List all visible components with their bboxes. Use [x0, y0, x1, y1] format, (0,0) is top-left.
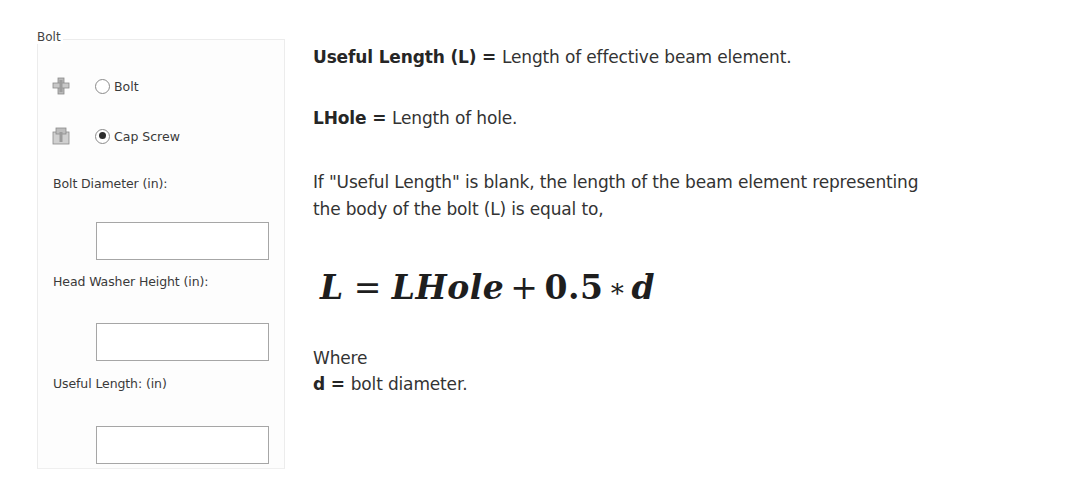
blank-length-paragraph-line2: the body of the bolt (L) is equal to,: [313, 197, 603, 222]
group-title: Bolt: [37, 30, 63, 44]
formula-lhs: L: [320, 268, 344, 307]
term-useful-length: Useful Length (L): [313, 47, 476, 67]
cap-screw-icon: [52, 127, 70, 145]
bolt-icon: [52, 77, 70, 95]
formula-equals: =: [354, 268, 382, 307]
cap-screw-radio[interactable]: [95, 129, 110, 144]
useful-length-input[interactable]: [96, 426, 269, 464]
bolt-diameter-label: Bolt Diameter (in):: [53, 176, 167, 191]
definition-lhole: LHole = Length of hole.: [313, 106, 517, 131]
term-lhole: LHole: [313, 108, 366, 128]
term-d: d: [313, 374, 325, 394]
formula-times: ∗: [608, 273, 626, 303]
useful-length-label: Useful Length: (in): [53, 376, 167, 391]
radio-row-bolt[interactable]: Bolt: [52, 76, 139, 96]
formula-lhole: LHole: [392, 268, 504, 307]
equals-sign: =: [366, 108, 392, 128]
head-washer-height-input[interactable]: [96, 323, 269, 361]
equals-sign: =: [476, 47, 502, 67]
where-label: Where: [313, 346, 367, 371]
formula-plus: +: [510, 268, 538, 307]
bolt-diameter-input[interactable]: [96, 222, 269, 260]
definition-useful-length: Useful Length (L) = Length of effective …: [313, 45, 792, 70]
equals-sign: =: [325, 374, 351, 394]
head-washer-height-label: Head Washer Height (in):: [53, 274, 208, 289]
definition-d: d = bolt diameter.: [313, 372, 467, 397]
formula-d: d: [632, 268, 656, 307]
bolt-radio[interactable]: [95, 79, 110, 94]
radio-row-cap-screw[interactable]: Cap Screw: [52, 126, 180, 146]
definition-text: Length of effective beam element.: [502, 47, 792, 67]
cap-screw-radio-label[interactable]: Cap Screw: [114, 129, 180, 144]
length-formula: L=LHole+0.5∗d: [320, 268, 655, 307]
formula-coefficient: 0.5: [544, 268, 603, 307]
definition-text: Length of hole.: [392, 108, 517, 128]
bolt-radio-label[interactable]: Bolt: [114, 79, 139, 94]
blank-length-paragraph-line1: If "Useful Length" is blank, the length …: [313, 170, 918, 195]
definition-text: bolt diameter.: [351, 374, 468, 394]
